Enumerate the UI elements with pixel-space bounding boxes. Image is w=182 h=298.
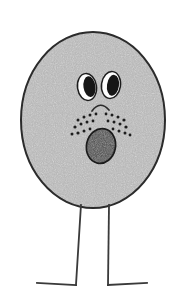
freckle-dot <box>86 121 89 124</box>
freckle-dot <box>105 113 108 116</box>
freckle-dot <box>83 130 86 133</box>
left-foot <box>37 283 76 285</box>
freckle-dot <box>83 116 86 119</box>
legs-group <box>37 205 147 285</box>
freckle-dot <box>117 116 120 119</box>
right-foot <box>108 283 147 285</box>
freckle-dot <box>71 133 74 136</box>
freckle-dot <box>122 118 125 121</box>
freckle-dot <box>118 130 121 133</box>
right-leg <box>108 205 109 285</box>
left-leg <box>76 205 81 285</box>
freckle-dot <box>107 120 110 123</box>
freckle-dot <box>124 125 127 128</box>
freckle-dot <box>80 123 83 126</box>
freckle-dot <box>77 119 80 122</box>
freckle-dot <box>111 114 114 117</box>
freckle-dot <box>89 128 92 131</box>
freckle-dot <box>112 128 115 131</box>
freckle-dot <box>119 123 122 126</box>
freckle-dot <box>113 121 116 124</box>
freckle-dot <box>95 113 98 116</box>
freckle-dot <box>129 134 132 137</box>
freckle-dot <box>124 132 127 135</box>
freckle-dot <box>89 114 92 117</box>
freckle-dot <box>73 125 76 128</box>
drawing-canvas: Hand-drawn cartoon character surprised /… <box>0 0 182 298</box>
freckle-dot <box>76 131 79 134</box>
freckle-dot <box>92 120 95 123</box>
cartoon-character-illustration <box>0 0 182 298</box>
